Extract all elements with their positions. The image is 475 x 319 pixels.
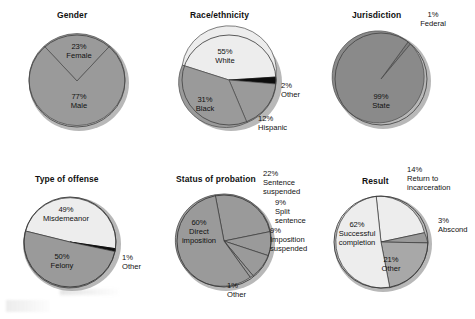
chart-title-probation: Status of probation — [176, 174, 256, 184]
slice-name-female: Female — [66, 51, 91, 60]
slice-pct-direct-imposition: 60% — [191, 218, 206, 227]
slice-name-race-other: Other — [281, 90, 300, 99]
slice-name2-split-sentence: sentence — [275, 216, 306, 225]
slice-label-probation-other: 1% Other — [227, 281, 246, 299]
slice-label-result-other: 21% Other — [367, 255, 415, 273]
slice-name1-direct-imposition: Direct — [189, 227, 209, 236]
slice-pct-probation-other: 1% — [227, 281, 238, 290]
slice-label-state: 99% State — [349, 92, 413, 110]
slice-label-female: 23% Female — [46, 42, 112, 60]
slice-pct-felony: 50% — [54, 252, 69, 261]
slice-name1-successful-completion: Successful — [339, 229, 376, 238]
slice-name2-direct-imposition: imposition — [182, 236, 216, 245]
slice-label-sentence-suspended: 22% Sentence suspended — [263, 169, 300, 197]
slice-name-result-other: Other — [382, 264, 401, 273]
slice-label-hispanic: 12% Hispanic — [258, 114, 287, 132]
slice-label-misdemeanor: 49% Misdemeanor — [22, 205, 110, 223]
chart-title-gender: Gender — [57, 10, 87, 20]
slice-label-abscond: 3% Abscond — [438, 216, 468, 234]
slice-name1-split-sentence: Split — [275, 207, 290, 216]
slice-name-black: Black — [196, 104, 215, 113]
slice-pct-misdemeanor: 49% — [58, 205, 73, 214]
pie-chart-figure: Gender 23% Female 77% Male Race/ethnicit… — [0, 0, 475, 319]
slice-name1-imposition-suspended: Imposition — [270, 235, 305, 244]
chart-panel-gender: Gender 23% Female 77% Male — [0, 0, 160, 160]
slice-label-white: 55% White — [193, 47, 257, 65]
slice-pct-sentence-suspended: 22% — [263, 169, 278, 178]
chart-panel-race: Race/ethnicity 55% White 2% Other — [155, 0, 315, 165]
chart-title-race: Race/ethnicity — [190, 10, 249, 20]
chart-title-offense: Type of offense — [35, 174, 99, 184]
slice-name2-imposition-suspended: suspended — [270, 244, 307, 253]
scan-artifact-corner — [6, 300, 50, 312]
slice-pct-split-sentence: 9% — [275, 198, 286, 207]
slice-name-white: White — [215, 56, 234, 65]
slice-name-offense-other: Other — [122, 262, 141, 271]
slice-pct-female: 23% — [71, 42, 86, 51]
slice-label-return-incarceration: 14% Return to incarceration — [407, 165, 450, 193]
slice-name2-successful-completion: completion — [339, 238, 376, 247]
slice-pct-black: 31% — [197, 95, 212, 104]
slice-name-hispanic: Hispanic — [258, 123, 287, 132]
slice-pct-federal: 1% — [428, 10, 439, 19]
slice-name1-sentence-suspended: Sentence — [263, 178, 295, 187]
slice-pct-return-incarceration: 14% — [407, 165, 422, 174]
chart-panel-offense: Type of offense 49% Misdemeanor 1% Other… — [0, 160, 165, 319]
slice-label-male: 77% Male — [46, 92, 112, 110]
slice-pct-state: 99% — [373, 92, 388, 101]
slice-name2-sentence-suspended: suspended — [263, 187, 300, 196]
slice-name1-return-incarceration: Return to — [407, 174, 438, 183]
chart-panel-jurisdiction: Jurisdiction 1% Federal 99% State — [305, 0, 475, 165]
chart-title-result: Result — [362, 176, 389, 186]
slice-name-misdemeanor: Misdemeanor — [43, 214, 89, 223]
slice-pct-successful-completion: 62% — [349, 220, 364, 229]
pie-jurisdiction — [329, 25, 435, 133]
scan-artifact-upper — [60, 289, 118, 295]
slice-label-imposition-suspended: 9% Imposition suspended — [270, 226, 307, 254]
slice-name-state: State — [372, 101, 390, 110]
slice-label-federal: 1% Federal — [405, 10, 461, 28]
slice-pct-white: 55% — [217, 47, 232, 56]
slice-label-direct-imposition: 60% Direct imposition — [164, 218, 234, 246]
slice-name-male: Male — [71, 101, 87, 110]
slice-name-federal: Federal — [420, 19, 446, 28]
slice-pct-hispanic: 12% — [258, 114, 273, 123]
slice-label-offense-other: 1% Other — [122, 253, 141, 271]
slice-label-felony: 50% Felony — [26, 252, 98, 270]
slice-name2-return-incarceration: incarceration — [407, 183, 450, 192]
slice-label-successful-completion: 62% Successful completion — [318, 220, 396, 248]
slice-pct-imposition-suspended: 9% — [270, 226, 281, 235]
slice-name-felony: Felony — [51, 261, 74, 270]
slice-pct-result-other: 21% — [383, 255, 398, 264]
slice-label-black: 31% Black — [176, 95, 234, 113]
slice-pct-race-other: 2% — [281, 81, 292, 90]
slice-label-split-sentence: 9% Split sentence — [275, 198, 306, 226]
slice-pct-male: 77% — [71, 92, 86, 101]
slice-label-race-other: 2% Other — [281, 81, 300, 99]
chart-title-jurisdiction: Jurisdiction — [352, 10, 401, 20]
slice-pct-offense-other: 1% — [122, 253, 133, 262]
slice-name-abscond: Abscond — [438, 225, 468, 234]
pie-jurisdiction-svg — [329, 25, 435, 133]
chart-panel-result: Result 14% Return to incarceration 3% — [310, 160, 475, 319]
slice-name-probation-other: Other — [227, 290, 246, 299]
chart-panel-probation: Status of probation 22% Sentence suspend… — [155, 160, 320, 319]
slice-pct-abscond: 3% — [438, 216, 449, 225]
